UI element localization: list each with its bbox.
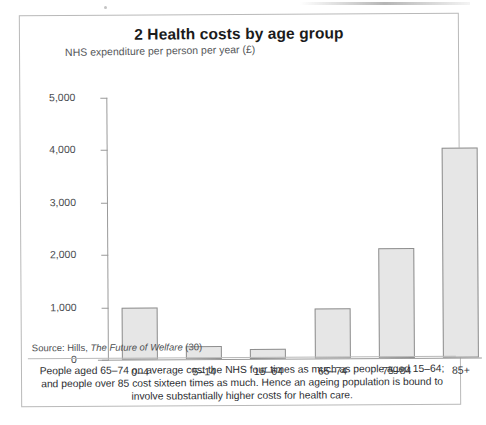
bar [378,248,415,358]
chart-plot-area: 01,0002,0003,0004,0005,000 0–45–1415–646… [63,52,450,329]
bar-series [106,95,486,359]
bar [442,148,479,358]
y-axis-tick-label: 5,000 [49,91,75,103]
figure-frame: 2 Health costs by age group NHS expendit… [19,13,461,408]
source-title: The Future of Welfare [90,341,182,353]
y-axis-tick-label: 3,000 [50,196,76,208]
bar [314,309,350,359]
y-axis-tick-label: 2,000 [50,248,76,260]
source-suffix: (30) [185,341,202,352]
page-title: 2 Health costs by age group [20,24,458,45]
scan-artifact-streak [300,2,470,5]
scan-artifact-speck [104,6,107,9]
y-axis-tick-label: 1,000 [50,301,76,313]
caption-box: People aged 65–74 on average cost the NH… [28,356,456,403]
y-axis-tick-label: 4,000 [49,143,75,155]
source-prefix: Source: Hills, [32,342,88,353]
caption-text: People aged 65–74 on average cost the NH… [28,362,456,404]
source-note: Source: Hills, The Future of Welfare (30… [32,341,202,353]
